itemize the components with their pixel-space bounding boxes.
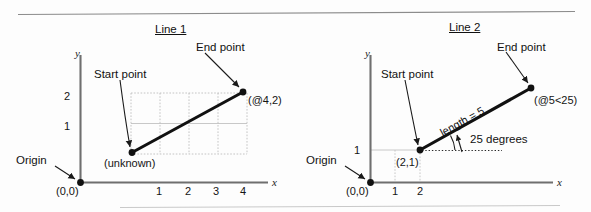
panel-title-line-2: Line 2: [449, 22, 480, 34]
panel-title-line-1: Line 1: [155, 24, 186, 36]
end-point-arrow-1: [205, 53, 239, 87]
y-axis-label-2: y: [365, 48, 370, 59]
bottom-rule: [120, 206, 560, 208]
y-tick-1-panel-2: 1: [354, 145, 360, 156]
panel-line-2-graphics: [345, 52, 553, 186]
x-axis-label-1: x: [272, 177, 277, 188]
start-point-arrow-2: [405, 80, 418, 145]
start-point-coord-2: (2,1): [396, 157, 419, 168]
start-point-callout-2: Start point: [381, 69, 433, 81]
y-tick-2-panel-1: 2: [64, 91, 70, 102]
line-segment-1: [132, 92, 243, 153]
origin-coord-1: (0,0): [56, 186, 79, 197]
start-point-arrow-1: [120, 80, 130, 147]
y-tick-1-panel-1: 1: [64, 121, 70, 132]
end-point-callout-2: End point: [497, 42, 546, 54]
origin-label-2: Origin: [306, 155, 337, 167]
top-rule: [18, 12, 575, 15]
origin-arrow-2: [345, 166, 365, 179]
end-point-coord-1: (@4,2): [248, 95, 282, 106]
diagram-vector-layer: [0, 0, 591, 212]
start-point-2: [417, 147, 424, 154]
figure-canvas: Line 1 y x 2 1 1 2 3 4 Origin (0,0) Star…: [0, 0, 591, 212]
angle-arc: [451, 136, 456, 151]
panel-line-1-graphics: [55, 53, 268, 186]
x-tick-1-panel-2: 1: [392, 186, 398, 197]
x-tick-2-panel-1: 2: [185, 186, 191, 197]
origin-arrow-1: [55, 166, 75, 179]
origin-coord-2: (0,0): [346, 186, 369, 197]
start-point-1: [129, 149, 136, 156]
x-tick-3-panel-1: 3: [213, 186, 219, 197]
start-point-callout-1: Start point: [94, 69, 146, 81]
start-point-coord-1: (unknown): [104, 158, 155, 169]
end-point-callout-1: End point: [196, 42, 245, 54]
angle-label: 25 degrees: [470, 134, 528, 146]
x-tick-1-panel-1: 1: [156, 186, 162, 197]
origin-label-1: Origin: [16, 155, 47, 167]
x-tick-4-panel-1: 4: [240, 186, 246, 197]
x-tick-2-panel-2: 2: [417, 186, 423, 197]
x-axis-label-2: x: [557, 177, 562, 188]
y-axis-label-1: y: [75, 48, 80, 59]
end-point-coord-2: (@5<25): [534, 95, 577, 106]
end-point-1: [240, 89, 247, 96]
angle-arrow: [457, 135, 462, 152]
end-point-arrow-2: [506, 52, 528, 83]
end-point-2: [528, 85, 535, 92]
